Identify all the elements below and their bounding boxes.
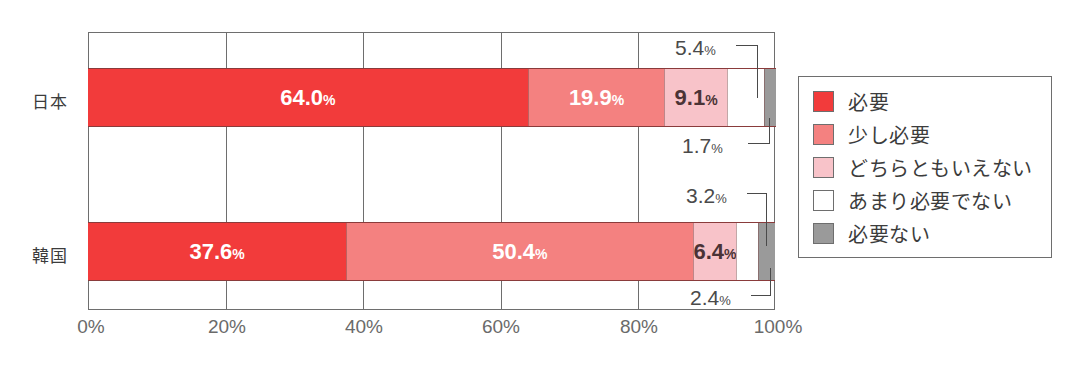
callout-japan-not-necessary: 1.7% <box>682 134 723 158</box>
segment-value-label: 9.1% <box>675 85 718 111</box>
axis-tick-20: 20% <box>208 316 246 338</box>
bar-korea: 37.6% 50.4% 6.4% <box>88 222 775 281</box>
segment-japan-necessary: 64.0% <box>88 69 528 126</box>
legend-label: どちらともいえない <box>848 153 1033 182</box>
callout-korea-not-very-necessary: 3.2% <box>686 184 727 208</box>
segment-japan-somewhat-necessary: 19.9% <box>528 69 665 126</box>
segment-value-label: 50.4% <box>492 239 547 265</box>
legend: 必要 少し必要 どちらともいえない あまり必要でない 必要ない <box>798 76 1052 258</box>
segment-japan-not-very-necessary <box>727 69 764 126</box>
axis-tick-100: 100% <box>754 316 803 338</box>
bar-japan: 64.0% 19.9% 9.1% <box>88 68 776 127</box>
callout-korea-not-necessary: 2.4% <box>690 286 731 310</box>
stacked-bar-chart: 日本 韓国 64.0% 19.9% 9.1% 5.4% 1.7% 37.6% 5… <box>0 0 1073 377</box>
category-label-japan: 日本 <box>18 88 82 113</box>
segment-value-label: 64.0% <box>280 85 335 111</box>
axis-tick-60: 60% <box>482 316 520 338</box>
axis-tick-40: 40% <box>345 316 383 338</box>
segment-japan-neither: 9.1% <box>664 69 727 126</box>
segment-korea-necessary: 37.6% <box>88 223 346 280</box>
legend-swatch-icon <box>813 223 834 244</box>
legend-label: 少し必要 <box>848 120 930 149</box>
segment-value-label: 6.4% <box>693 239 736 265</box>
legend-item-not-necessary: 必要ない <box>813 217 1051 250</box>
legend-item-neither: どちらともいえない <box>813 151 1051 184</box>
axis-tick-80: 80% <box>620 316 658 338</box>
legend-item-somewhat-necessary: 少し必要 <box>813 118 1051 151</box>
legend-swatch-icon <box>813 157 834 178</box>
legend-label: 必要ない <box>848 219 930 248</box>
callout-japan-not-very-necessary: 5.4% <box>675 36 716 60</box>
segment-value-label: 37.6% <box>190 239 245 265</box>
segment-korea-not-very-necessary <box>736 223 758 280</box>
legend-swatch-icon <box>813 91 834 112</box>
legend-label: 必要 <box>848 87 889 116</box>
legend-label: あまり必要でない <box>848 186 1012 215</box>
legend-swatch-icon <box>813 124 834 145</box>
segment-korea-somewhat-necessary: 50.4% <box>346 223 692 280</box>
legend-item-not-very-necessary: あまり必要でない <box>813 184 1051 217</box>
category-label-korea: 韓国 <box>18 242 82 267</box>
segment-korea-neither: 6.4% <box>693 223 737 280</box>
segment-value-label: 19.9% <box>569 85 624 111</box>
axis-tick-0: 0% <box>77 316 104 338</box>
legend-item-necessary: 必要 <box>813 85 1051 118</box>
legend-swatch-icon <box>813 190 834 211</box>
